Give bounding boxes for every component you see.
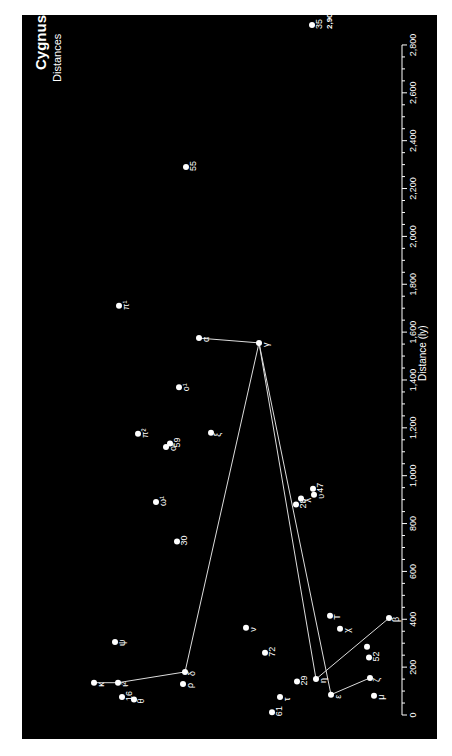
axis-tick-label: 200 bbox=[408, 660, 418, 675]
constellation-line bbox=[118, 672, 185, 683]
star-label: ρ bbox=[185, 683, 195, 688]
star-label: 30 bbox=[179, 535, 189, 545]
star-note: 2,900 ly bbox=[325, 0, 334, 29]
axis-tick-label: 0 bbox=[408, 712, 418, 717]
star-label: 55 bbox=[188, 161, 198, 171]
star-label: π² bbox=[140, 429, 150, 438]
star-label: 29 bbox=[299, 675, 309, 685]
star-label: θ bbox=[136, 698, 146, 703]
chart-title: Cygnus bbox=[32, 15, 49, 70]
star-label: α bbox=[201, 337, 211, 342]
star-dot bbox=[364, 644, 370, 650]
star-label: η bbox=[318, 678, 328, 683]
chart-subtitle: Distances bbox=[51, 33, 63, 82]
star-label: π¹ bbox=[121, 301, 131, 310]
star-label: ω¹ bbox=[158, 496, 168, 506]
axis-tick-label: 2,600 bbox=[408, 82, 418, 105]
star-label: T bbox=[332, 614, 342, 620]
star-label: 52 bbox=[371, 652, 381, 662]
star-label: ε bbox=[333, 695, 343, 699]
constellation-line bbox=[259, 343, 316, 679]
axis-tick-label: 2,800 bbox=[408, 34, 418, 57]
axis-tick-label: 2,200 bbox=[408, 177, 418, 200]
star-label: 28 bbox=[298, 498, 308, 508]
axis-tick-label: 1,000 bbox=[408, 464, 418, 487]
star-label: μ bbox=[376, 695, 386, 700]
star-label: β bbox=[391, 617, 401, 622]
constellation-lines bbox=[94, 338, 389, 695]
chart-titles: Cygnus Distances Distance (ly) bbox=[32, 15, 428, 381]
constellation-line bbox=[259, 343, 331, 695]
axis-tick-label: 1,800 bbox=[408, 273, 418, 296]
star-label: o² bbox=[168, 443, 178, 451]
distance-axis: 02004006008001,0001,2001,4001,6001,8002,… bbox=[402, 34, 418, 718]
axis-tick-label: 400 bbox=[408, 612, 418, 627]
axis-tick-label: 2,000 bbox=[408, 225, 418, 248]
star-label: χ bbox=[342, 628, 352, 633]
star-label: ζ bbox=[372, 678, 382, 682]
star-label: δ bbox=[187, 671, 197, 676]
star-label: o¹ bbox=[181, 383, 191, 391]
star-label: 61 bbox=[274, 706, 284, 716]
star-label: ξ bbox=[213, 433, 223, 437]
axis-tick-label: 600 bbox=[408, 564, 418, 579]
star-label: ν bbox=[248, 627, 258, 632]
star-label: γ bbox=[261, 342, 271, 347]
constellation-line bbox=[185, 343, 259, 672]
axis-tick-label: 2,400 bbox=[408, 129, 418, 152]
star-label: κ bbox=[96, 682, 106, 687]
constellation-line bbox=[316, 618, 389, 679]
star-label: ψ bbox=[117, 640, 127, 646]
axis-tick-label: 1,200 bbox=[408, 417, 418, 440]
constellation-line bbox=[331, 678, 370, 695]
axis-title: Distance (ly) bbox=[417, 325, 428, 381]
star-label: 72 bbox=[267, 647, 277, 657]
star-label: 35 bbox=[314, 19, 324, 29]
distance-chart: 02004006008001,0001,2001,4001,6001,8002,… bbox=[0, 0, 452, 756]
axis-tick-label: 800 bbox=[408, 516, 418, 531]
star-label: 47 bbox=[315, 483, 325, 493]
star-label: υ bbox=[316, 494, 326, 499]
star-label: ι² bbox=[120, 682, 130, 687]
star-label: τ bbox=[282, 697, 292, 701]
star-points: 352,900 ly55π¹αγo¹π²ξ59o²ω¹3047υλ28Tβνχψ… bbox=[91, 0, 401, 716]
